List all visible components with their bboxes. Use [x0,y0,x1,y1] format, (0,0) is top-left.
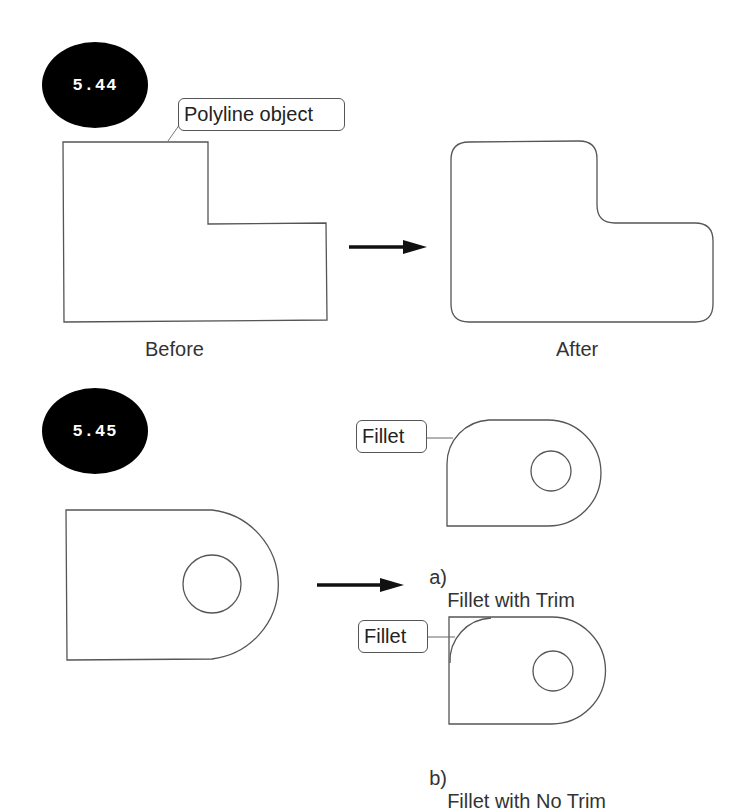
figure-badge-5-44: 5.44 [42,42,148,128]
part-fillet-trim-hole [531,451,571,491]
fillet-callout-a: Fillet [356,420,427,453]
figure-badge-5-45: 5.45 [42,388,148,474]
figure-number: 5.44 [73,76,118,95]
part-original-hole [183,555,241,613]
part-original-shape [66,510,278,660]
polyline-object-callout: Polyline object [178,98,345,131]
arrow-icon [349,240,427,254]
polyline-after-shape [451,141,713,322]
polyline-before-shape [63,142,327,322]
callout-label: Fillet [362,425,404,447]
part-fillet-notrim-hole [533,651,573,691]
caption-b: b) Fillet with No Trim [418,744,606,812]
part-fillet-notrim-shape [449,617,606,724]
caption-marker: a) [429,566,447,588]
fillet-callout-b: Fillet [358,620,428,653]
caption-text: Fillet with No Trim [447,790,606,812]
fillet-notrim-arc [450,618,491,663]
caption-marker: b) [429,767,447,789]
caption-text: Fillet with Trim [447,589,575,611]
caption-a: a) Fillet with Trim [418,543,575,612]
part-fillet-trim-shape [447,420,601,526]
figure-number: 5.45 [73,422,118,441]
arrow-icon [317,578,404,592]
after-label: After [556,338,598,361]
callout-label: Fillet [364,625,406,647]
callout-label: Polyline object [184,103,313,125]
before-label: Before [145,338,204,361]
